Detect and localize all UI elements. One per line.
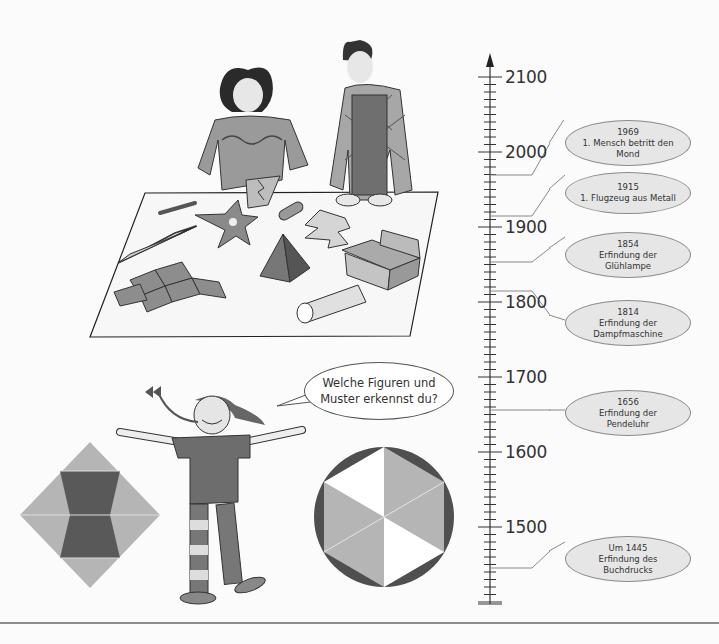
axis-label-1500: 1500: [505, 517, 547, 537]
event-text: Glühlampe: [605, 261, 651, 272]
event-1814: 1814 Erfindung der Dampfmaschine: [565, 300, 691, 346]
event-year: 1915: [617, 182, 639, 193]
axis-label-1700: 1700: [505, 367, 547, 387]
event-text: 1. Flugzeug aus Metall: [580, 193, 676, 204]
girl-cutting-figure: [198, 68, 308, 208]
event-text: Erfindung des: [599, 554, 658, 565]
axis-label-2100: 2100: [505, 67, 547, 87]
axis-label-1900: 1900: [505, 217, 547, 237]
event-year: 1969: [617, 127, 639, 138]
event-1915: 1915 1. Flugzeug aus Metall: [565, 172, 691, 214]
axis-label-2000: 2000: [505, 142, 547, 162]
event-1656: 1656 Erfindung der Pendeluhr: [565, 390, 691, 436]
event-text: Dampfmaschine: [593, 329, 662, 340]
event-year: 1814: [617, 307, 639, 318]
axis-label-1600: 1600: [505, 442, 547, 462]
speech-line-2: Muster erkennst du?: [320, 391, 438, 407]
boy-watching-figure: [330, 40, 412, 206]
page-divider: [0, 622, 719, 624]
event-text: Erfindung der: [599, 408, 657, 419]
event-1445: Um 1445 Erfindung des Buchdrucks: [565, 536, 691, 582]
event-text: Erfindung der: [599, 250, 657, 261]
children-crafting-illustration: [0, 0, 470, 380]
event-year: Um 1445: [609, 543, 648, 554]
event-year: 1854: [617, 239, 639, 250]
event-1854: 1854 Erfindung der Glühlampe: [565, 232, 691, 278]
girl-open-arms-illustration: [110, 380, 310, 610]
event-text: Pendeluhr: [607, 419, 650, 430]
event-year: 1656: [617, 397, 639, 408]
speech-bubble: Welche Figuren und Muster erkennst du?: [304, 362, 454, 420]
event-text: 1. Mensch betritt den: [582, 138, 673, 149]
event-text: Erfindung der: [599, 318, 657, 329]
event-text: Buchdrucks: [603, 565, 653, 576]
event-connectors: [490, 143, 550, 568]
speech-line-1: Welche Figuren und: [322, 375, 435, 391]
hexagon-in-circle-pattern: [313, 443, 455, 591]
axis-label-1800: 1800: [505, 292, 547, 312]
event-1969: 1969 1. Mensch betritt den Mond: [565, 120, 691, 166]
event-text: Mond: [616, 149, 639, 160]
